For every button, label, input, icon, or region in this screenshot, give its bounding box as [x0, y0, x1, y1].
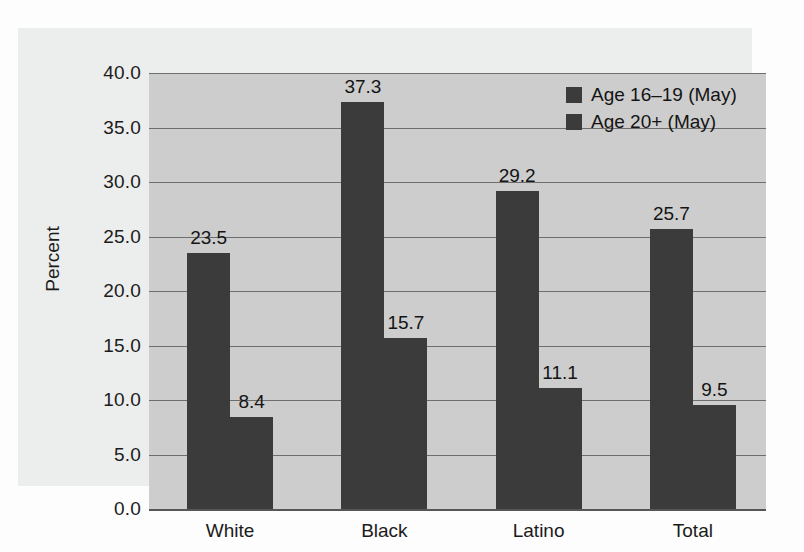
bar-white-series-2	[230, 417, 273, 509]
x-axis-tick-label: White	[206, 520, 255, 542]
y-axis-tick-label: 25.0	[71, 226, 141, 248]
y-axis-tick-label: 20.0	[71, 280, 141, 302]
figure-plate: 23.58.437.315.729.211.125.79.5 40.035.03…	[18, 28, 752, 486]
bar-value-label: 8.4	[238, 391, 264, 413]
y-axis-tick-label: 30.0	[71, 171, 141, 193]
y-axis-title: Percent	[42, 204, 64, 314]
bar-latino-series-1	[496, 191, 539, 509]
chart-legend: Age 16–19 (May) Age 20+ (May)	[566, 83, 737, 133]
y-axis-tick-label: 35.0	[71, 117, 141, 139]
legend-item: Age 16–19 (May)	[566, 83, 737, 106]
bar-total-series-2	[693, 405, 736, 509]
legend-item: Age 20+ (May)	[566, 110, 737, 133]
legend-swatch-series-2	[566, 114, 582, 130]
y-axis-tick-label: 40.0	[71, 62, 141, 84]
x-axis-tick-label: Black	[361, 520, 407, 542]
bar-value-label: 23.5	[190, 227, 227, 249]
gridline	[149, 182, 766, 183]
bar-latino-series-2	[539, 388, 582, 509]
legend-label-series-1: Age 16–19 (May)	[591, 84, 737, 106]
bar-value-label: 29.2	[499, 165, 536, 187]
y-axis-tick-label: 0.0	[71, 498, 141, 520]
bar-value-label: 9.5	[701, 379, 727, 401]
x-axis-tick-label: Latino	[513, 520, 565, 542]
bar-white-series-1	[187, 253, 230, 509]
x-axis-tick-label: Total	[673, 520, 713, 542]
y-axis-tick-labels: 40.035.030.025.020.015.010.05.00.0	[66, 73, 141, 509]
plot-area: 23.58.437.315.729.211.125.79.5	[149, 73, 766, 511]
chart-screenshot: 23.58.437.315.729.211.125.79.5 40.035.03…	[0, 0, 804, 552]
bar-black-series-2	[384, 338, 427, 509]
legend-label-series-2: Age 20+ (May)	[591, 111, 716, 133]
y-axis-tick-label: 5.0	[71, 444, 141, 466]
legend-swatch-series-1	[566, 87, 582, 103]
bar-value-label: 11.1	[542, 362, 578, 384]
bar-value-label: 37.3	[344, 76, 381, 98]
y-axis-tick-label: 15.0	[71, 335, 141, 357]
y-axis-tick-label: 10.0	[71, 389, 141, 411]
bar-black-series-1	[341, 102, 384, 509]
gridline	[149, 73, 766, 74]
bar-value-label: 15.7	[387, 312, 424, 334]
bar-value-label: 25.7	[653, 203, 690, 225]
bar-total-series-1	[650, 229, 693, 509]
